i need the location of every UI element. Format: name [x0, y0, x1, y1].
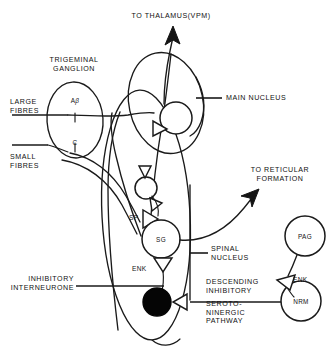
- c-fibre-input-curve: [48, 145, 68, 152]
- interneuron-relay-cell: [135, 177, 157, 199]
- a-beta-greek: β: [75, 97, 79, 104]
- nrm-cell-label: NRM: [284, 298, 318, 305]
- trigeminal-pain-pathway-diagram: TO THALAMUS(VPM) TRIGEMINAL GANGLION LAR…: [0, 0, 336, 353]
- to-thalamus-label: TO THALAMUS(VPM): [96, 12, 246, 21]
- reticular-arrow-icon: [241, 189, 259, 207]
- inhibitory-interneurone-label: INHIBITORY INTERNEURONE: [0, 275, 74, 292]
- enkephalin-pag-label: ENK: [293, 276, 308, 283]
- c-cell-label: C: [58, 139, 92, 146]
- pag-cell-label: PAG: [288, 233, 322, 240]
- pag-to-nrm-axon: [288, 255, 297, 276]
- to-reticular-formation-label: TO RETICULAR FORMATION: [232, 166, 328, 183]
- sg-cell-label: SG: [144, 236, 178, 243]
- small-fibre-collateral: [62, 160, 137, 234]
- a-beta-cell-label: Aβ: [58, 97, 92, 104]
- enkephalin-synapse-icon: [154, 258, 172, 272]
- relay-upper-synapse-icon: [139, 166, 151, 178]
- enkephalin-spinal-label: ENK: [132, 265, 147, 272]
- c-fibre-central-axon: [70, 153, 140, 222]
- figure-bottom-edge-stroke: [152, 339, 180, 345]
- spinal-nucleus-label: SPINAL NUCLEUS: [211, 245, 249, 262]
- substance-p-label: SP: [129, 214, 139, 221]
- main-nucleus-label: MAIN NUCLEUS: [226, 94, 286, 103]
- descending-inhibitory-label: DESCENDING INHIBITORY: [206, 278, 259, 295]
- trigeminal-ganglion-label: TRIGEMINAL GANGLION: [20, 56, 128, 73]
- small-fibres-label: SMALL FIBRES: [10, 153, 39, 170]
- main-nucleus-outline: [119, 45, 213, 160]
- serotoninergic-pathway-label: SEROTO- NINERGIC PATHWAY: [206, 300, 245, 326]
- inhibitory-interneurone-cell: [143, 288, 171, 316]
- relay-lower-synapse-icon: [150, 198, 162, 211]
- large-fibres-label: LARGE FIBRES: [10, 98, 39, 115]
